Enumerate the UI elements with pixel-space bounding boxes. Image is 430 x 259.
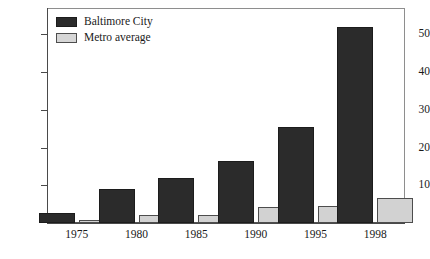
legend-label: Baltimore City [84,16,153,28]
chart-legend: Baltimore City Metro average [56,14,153,46]
bar [377,198,413,223]
bar-chart: 1020304050 197519801985199019951998 Balt… [0,0,430,259]
bar [158,178,194,223]
bar [218,161,254,223]
x-axis-tick-label: 1975 [65,229,88,241]
legend-item-baltimore-city: Baltimore City [56,14,153,29]
legend-item-metro-average: Metro average [56,30,153,45]
light-swatch-icon [56,33,77,43]
x-axis-tick-label: 1998 [364,229,387,241]
bar-group [337,8,413,223]
bar [278,127,314,223]
x-axis-tick-label: 1985 [185,229,208,241]
x-axis-line [47,223,405,224]
x-axis-tick-label: 1980 [125,229,148,241]
bar [337,27,373,223]
x-axis-tick-label: 1995 [304,229,327,241]
legend-label: Metro average [84,32,151,44]
x-axis-tick-label: 1990 [244,229,267,241]
bar [99,189,135,223]
bar [39,213,75,223]
dark-swatch-icon [56,17,77,27]
